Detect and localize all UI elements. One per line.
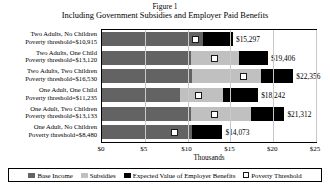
category-name: One Adult, Two Children: [0, 105, 97, 113]
bar-row: $15,297: [102, 30, 316, 49]
y-axis-labels: Two Adults, No ChildrenPoverty threshold…: [0, 29, 99, 143]
bar-value-label: $19,406: [271, 54, 295, 63]
figure-container: Figure 1 Including Government Subsidies …: [0, 0, 330, 190]
legend-swatch-icon: [81, 173, 88, 178]
bar-segment-base-income: [102, 51, 191, 65]
bar-rows: $15,297$19,406$22,356$18,242$21,312$14,0…: [102, 30, 316, 142]
legend-swatch-icon: [28, 173, 35, 178]
legend-label: Expected Value of Employer Benefits: [133, 172, 236, 179]
bar-value-label: $15,297: [236, 35, 260, 44]
bar-row: $21,312: [102, 105, 316, 124]
poverty-threshold-marker: [211, 55, 218, 62]
bar-segment-base-income: [102, 125, 192, 139]
bar-segment-base-income: [102, 69, 192, 83]
chart-legend: Base IncomeSubsidiesExpected Value of Em…: [8, 168, 322, 182]
x-axis-tick-label: $10: [181, 145, 192, 153]
category-threshold: Poverty threshold=$16,530: [0, 75, 97, 83]
figure-title-block: Figure 1 Including Government Subsidies …: [0, 2, 330, 21]
legend-threshold-marker-icon: [243, 172, 249, 178]
bar-segment-expected-value-of-employer-benefits: [251, 107, 284, 121]
bar-row: $14,073: [102, 123, 316, 142]
poverty-threshold-marker: [195, 92, 202, 99]
bar-segment-expected-value-of-employer-benefits: [261, 69, 293, 83]
y-axis-category-label: One Adult, No ChildrenPoverty threshold=…: [0, 123, 97, 138]
legend-item: Expected Value of Employer Benefits: [124, 172, 236, 179]
poverty-threshold-marker: [240, 73, 247, 80]
gridline: [273, 30, 274, 142]
category-threshold: Poverty threshold=$11,235: [0, 94, 97, 102]
figure-title: Including Government Subsidies and Emplo…: [0, 11, 330, 21]
plot-area: $15,297$19,406$22,356$18,242$21,312$14,0…: [101, 29, 317, 143]
bar-row: $19,406: [102, 49, 316, 68]
y-axis-category-label: One Adult, Two ChildrenPoverty threshold…: [0, 105, 97, 120]
bar-segment-base-income: [102, 88, 180, 102]
category-threshold: Poverty threshold=$13,133: [0, 112, 97, 120]
bar-row: $18,242: [102, 86, 316, 105]
category-name: One Adult, No Children: [0, 123, 97, 131]
category-name: Two Adults, No Children: [0, 30, 97, 38]
figure-number: Figure 1: [0, 2, 330, 11]
x-axis-tick-label: $5: [140, 145, 147, 153]
bar-segment-expected-value-of-employer-benefits: [239, 51, 268, 65]
category-name: Two Adults, Two Children: [0, 67, 97, 75]
bar-segment-subsidies: [192, 69, 261, 83]
bar-segment-expected-value-of-employer-benefits: [192, 125, 223, 139]
gridline: [230, 30, 231, 142]
legend-label: Base Income: [37, 172, 72, 179]
legend-item: Poverty Threshold: [243, 172, 301, 179]
category-name: One Adult, One Child: [0, 86, 97, 94]
bar-value-label: $21,312: [287, 110, 311, 119]
legend-label: Poverty Threshold: [251, 172, 301, 179]
x-axis-tick-label: $0: [98, 145, 105, 153]
gridline: [316, 30, 317, 142]
category-name: Two Adults, One Child: [0, 49, 97, 57]
poverty-threshold-marker: [192, 36, 199, 43]
bar-segment-base-income: [102, 107, 191, 121]
bar-value-label: $14,073: [225, 128, 249, 137]
gridline: [145, 30, 146, 142]
category-threshold: Poverty threshold=$8,480: [0, 131, 97, 139]
bar-row: $22,356: [102, 67, 316, 86]
poverty-threshold-marker: [171, 129, 178, 136]
bar-segment-expected-value-of-employer-benefits: [203, 32, 233, 46]
y-axis-category-label: Two Adults, Two ChildrenPoverty threshol…: [0, 67, 97, 82]
x-axis-tick-label: $15: [224, 145, 235, 153]
bar-segment-subsidies: [191, 107, 251, 121]
gridline: [188, 30, 189, 142]
legend-label: Subsidies: [90, 172, 116, 179]
y-axis-category-label: Two Adults, One ChildPoverty threshold=$…: [0, 49, 97, 64]
x-axis-tick-label: $25: [310, 145, 321, 153]
category-threshold: Poverty threshold=$13,120: [0, 56, 97, 64]
legend-item: Base Income: [28, 172, 72, 179]
y-axis-category-label: One Adult, One ChildPoverty threshold=$1…: [0, 86, 97, 101]
category-threshold: Poverty threshold=$10,915: [0, 38, 97, 46]
bar-segment-expected-value-of-employer-benefits: [223, 88, 258, 102]
x-axis-title: Thousands: [101, 154, 317, 163]
poverty-threshold-marker: [211, 111, 218, 118]
y-axis-category-label: Two Adults, No ChildrenPoverty threshold…: [0, 30, 97, 45]
legend-swatch-icon: [124, 173, 131, 178]
legend-item: Subsidies: [81, 172, 116, 179]
x-axis-tick-label: $20: [267, 145, 278, 153]
